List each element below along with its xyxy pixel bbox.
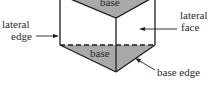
lateral-edge-label-line2: edge	[11, 30, 32, 42]
base-edge-label: base edge	[157, 66, 200, 78]
triangular-prism-diagram: base base lateral edge lateral face base…	[0, 0, 216, 95]
top-base-label: base	[100, 0, 120, 8]
lateral-face-label-line2: face	[181, 21, 199, 33]
lateral-face-label-line1: lateral	[180, 9, 207, 21]
lateral-edge-arrowhead-icon	[53, 34, 59, 38]
bottom-base-label: base	[90, 47, 110, 59]
lateral-edge-label-line1: lateral	[2, 18, 29, 30]
lateral-face-arrowhead-icon	[139, 27, 145, 31]
prism-figure: base base lateral edge lateral face base…	[0, 0, 216, 95]
base-edge-arrowhead-icon	[135, 58, 141, 63]
base-edge-arrow	[138, 60, 155, 70]
